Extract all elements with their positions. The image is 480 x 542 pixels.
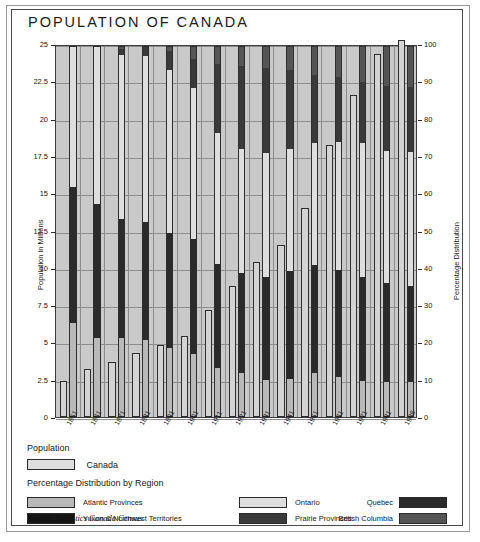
bar-group[interactable] — [80, 46, 104, 417]
bar-group[interactable] — [249, 46, 273, 417]
stack-segment — [239, 149, 244, 274]
stack-segment — [408, 46, 413, 87]
y-axis-left-tick: 7.5 — [14, 301, 48, 310]
stack-segment — [360, 143, 365, 276]
percentage-stacked-bar[interactable] — [214, 46, 221, 417]
stack-segment — [191, 46, 196, 58]
population-bar[interactable] — [350, 95, 357, 417]
stack-segment — [191, 88, 196, 239]
y-axis-left-tick: 0 — [14, 413, 48, 422]
population-bar[interactable] — [181, 336, 188, 417]
bar-group[interactable] — [128, 46, 152, 417]
percentage-stacked-bar[interactable] — [311, 46, 318, 417]
stack-segment — [336, 142, 341, 270]
bar-group[interactable] — [370, 46, 394, 417]
legend-item[interactable]: British Columbia — [338, 509, 447, 527]
stack-segment — [215, 64, 220, 133]
population-bar[interactable] — [253, 262, 260, 417]
bar-group[interactable] — [104, 46, 128, 417]
percentage-stacked-bar[interactable] — [69, 46, 76, 417]
percentage-stacked-bar[interactable] — [93, 46, 100, 417]
stack-segment — [312, 143, 317, 265]
stack-segment — [312, 75, 317, 143]
stack-segment — [263, 68, 268, 153]
bar-group[interactable] — [201, 46, 225, 417]
stack-segment — [143, 47, 148, 56]
bar-group[interactable] — [273, 46, 297, 417]
y-axis-left-tick: 20 — [14, 115, 48, 124]
stack-segment — [336, 77, 341, 142]
legend-label-canada: Canada — [86, 460, 118, 470]
tick-mark — [51, 232, 55, 233]
stack-segment — [167, 70, 172, 233]
chart-page: POPULATION OF CANADA Population in Milli… — [0, 0, 480, 542]
legend-item[interactable]: Prairie Provinces — [239, 509, 352, 527]
bar-group[interactable] — [56, 46, 80, 417]
stack-segment — [384, 86, 389, 151]
stack-segment — [70, 323, 75, 416]
stack-segment — [287, 271, 292, 379]
bar-group[interactable] — [321, 46, 345, 417]
percentage-stacked-bar[interactable] — [286, 46, 293, 417]
y-axis-left-tick: 5 — [14, 338, 48, 347]
population-bar[interactable] — [374, 54, 381, 417]
population-bar[interactable] — [229, 286, 236, 417]
percentage-stacked-bar[interactable] — [359, 46, 366, 417]
stack-segment — [143, 56, 148, 222]
stack-segment — [263, 46, 268, 68]
y-axis-right-tick: 50 — [424, 227, 458, 236]
population-bar[interactable] — [108, 362, 115, 417]
percentage-stacked-bar[interactable] — [407, 46, 414, 417]
bar-group[interactable] — [153, 46, 177, 417]
y-axis-right-tick: 40 — [424, 264, 458, 273]
stack-segment — [384, 151, 389, 283]
population-bar[interactable] — [301, 208, 308, 417]
legend-population-row: Canada — [27, 455, 447, 473]
stack-segment — [239, 273, 244, 373]
population-bar[interactable] — [60, 381, 67, 417]
percentage-stacked-bar[interactable] — [166, 46, 173, 417]
population-bar[interactable] — [132, 353, 139, 417]
percentage-stacked-bar[interactable] — [142, 46, 149, 417]
stack-segment — [119, 46, 124, 49]
percentage-stacked-bar[interactable] — [238, 46, 245, 417]
y-axis-right-tick: 90 — [424, 77, 458, 86]
stack-segment — [360, 46, 365, 82]
legend-item-label: Ontario — [295, 498, 320, 507]
bar-group[interactable] — [394, 46, 418, 417]
stack-segment — [215, 46, 220, 64]
legend-item-label: Atlantic Provinces — [83, 498, 143, 507]
bar-group[interactable] — [346, 46, 370, 417]
stack-segment — [263, 277, 268, 380]
stack-segment — [312, 265, 317, 373]
stack-segment — [408, 152, 413, 286]
population-bar[interactable] — [157, 345, 164, 417]
population-bar[interactable] — [398, 40, 405, 417]
stack-segment — [167, 348, 172, 416]
bar-group[interactable] — [297, 46, 321, 417]
percentage-stacked-bar[interactable] — [262, 46, 269, 417]
source-note: Source: Statistics Canada Census — [28, 513, 143, 523]
legend-distribution-head: Percentage Distribution by Region — [27, 478, 447, 488]
population-bar[interactable] — [84, 369, 91, 417]
y-axis-right-tick: 30 — [424, 301, 458, 310]
y-axis-right-tick: 10 — [424, 376, 458, 385]
stack-segment — [215, 133, 220, 264]
tick-mark — [51, 45, 55, 46]
percentage-stacked-bar[interactable] — [335, 46, 342, 417]
stack-segment — [336, 46, 341, 77]
tick-mark — [418, 45, 422, 46]
population-bar[interactable] — [205, 310, 212, 417]
stack-segment — [70, 46, 75, 187]
percentage-stacked-bar[interactable] — [118, 46, 125, 417]
bar-group[interactable] — [177, 46, 201, 417]
bar-group[interactable] — [225, 46, 249, 417]
percentage-stacked-bar[interactable] — [190, 46, 197, 417]
plot-area — [55, 45, 417, 418]
population-bar[interactable] — [277, 245, 284, 417]
percentage-stacked-bar[interactable] — [383, 46, 390, 417]
population-bar[interactable] — [326, 145, 333, 417]
stack-segment — [143, 340, 148, 416]
y-axis-right-tick: 70 — [424, 152, 458, 161]
stack-segment — [167, 51, 172, 70]
